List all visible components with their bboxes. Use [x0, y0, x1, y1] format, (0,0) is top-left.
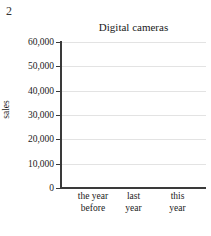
x-category-line-1: this — [157, 191, 198, 203]
question-number: 2 — [6, 4, 12, 18]
chart-title: Digital cameras — [61, 21, 206, 34]
x-category-line-2: year — [157, 203, 198, 215]
y-tick-mark-40000 — [56, 91, 61, 92]
x-axis-line — [61, 187, 206, 189]
gridline-30000 — [61, 115, 206, 116]
gridline-60000 — [61, 42, 206, 43]
x-category-line-2: year — [113, 203, 154, 215]
y-tick-mark-50000 — [56, 66, 61, 67]
y-axis-title: sales — [1, 87, 12, 133]
plot-area — [61, 42, 206, 188]
y-tick-label-50000: 50,000 — [2, 61, 54, 71]
gridline-20000 — [61, 139, 206, 140]
x-category-label-last-year: last year — [113, 191, 154, 214]
gridline-10000 — [61, 164, 206, 165]
y-tick-label-60000: 60,000 — [2, 37, 54, 47]
x-category-line-1: last — [113, 191, 154, 203]
y-tick-mark-20000 — [56, 139, 61, 140]
y-tick-label-10000: 10,000 — [2, 159, 54, 169]
y-tick-mark-10000 — [56, 164, 61, 165]
y-tick-label-0: 0 — [2, 183, 54, 193]
gridline-50000 — [61, 66, 206, 67]
y-tick-label-20000: 20,000 — [2, 134, 54, 144]
gridline-40000 — [61, 91, 206, 92]
chart-figure: 2 Digital cameras 60,000 50,000 40,000 3… — [0, 0, 211, 236]
x-category-label-this-year: this year — [157, 191, 198, 214]
y-tick-mark-30000 — [56, 115, 61, 116]
y-tick-mark-0 — [56, 188, 61, 189]
y-tick-mark-60000 — [56, 42, 61, 43]
